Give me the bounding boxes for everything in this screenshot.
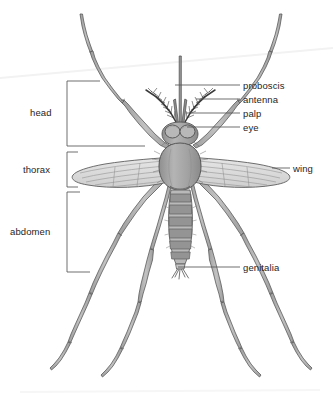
- head-appendages: [146, 56, 215, 124]
- genitalia: [172, 264, 189, 279]
- antenna-right: [185, 88, 215, 122]
- leg-mid-left: [50, 172, 171, 370]
- label-eye: eye: [243, 123, 259, 133]
- abdomen: [164, 190, 196, 264]
- mosquito-anatomy-diagram: proboscis antenna palp eye wing genitali…: [0, 0, 333, 396]
- label-proboscis: proboscis: [243, 81, 285, 91]
- label-genitalia: genitalia: [243, 263, 279, 273]
- label-wing: wing: [293, 164, 313, 174]
- antenna-left: [146, 88, 176, 122]
- diagram-canvas: [0, 0, 333, 396]
- label-abdomen: abdomen: [10, 227, 50, 237]
- label-antenna: antenna: [243, 95, 278, 105]
- eye-left: [165, 125, 180, 138]
- label-palp: palp: [243, 109, 261, 119]
- proboscis: [179, 56, 181, 124]
- background-artifact: [0, 48, 333, 392]
- abdomen-bracket: [67, 192, 90, 272]
- label-head: head: [30, 108, 52, 118]
- label-thorax: thorax: [23, 165, 50, 175]
